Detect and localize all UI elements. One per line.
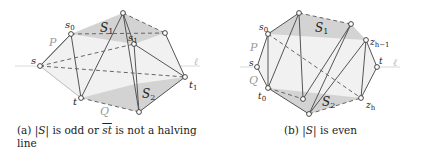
caption-b-S: S [306,124,313,136]
diagram-panel-b: s s0 t0 t zh−1 zh S1 S2 P Q ℓ [0,0,421,120]
vertex-inner [301,97,306,102]
caption-a-line2: line [17,137,37,149]
vertex-t0 [266,86,271,91]
label-zh: zh [365,100,376,112]
vertex-zh-1 [364,38,369,43]
caption-a: (a) |S| is odd or st is not a halving li… [17,124,217,150]
caption-b-rest: | is even [313,124,357,136]
caption-b: (b) |S| is even [284,124,357,137]
caption-a-prefix: (a) | [17,124,38,136]
label-s0: s0 [259,22,268,34]
vertex-upper [349,22,354,27]
vertex-zh [359,96,364,101]
label-t: t [379,56,383,66]
caption-a-rest: is not a halving [112,124,197,136]
label-P: P [249,41,258,54]
vertex-s [255,65,260,70]
vertex-top [297,11,302,16]
label-Q: Q [249,74,258,87]
vertex-bottom [307,112,312,117]
caption-b-prefix: (b) | [284,124,306,136]
label-s: s [249,58,254,68]
caption-a-st: st [102,124,112,136]
label-ell: ℓ [393,57,397,68]
caption-a-S: S [38,124,45,136]
caption-a-mid: | is odd or [46,124,103,136]
label-t0: t0 [258,91,266,103]
label-zh-1: zh−1 [369,37,390,49]
